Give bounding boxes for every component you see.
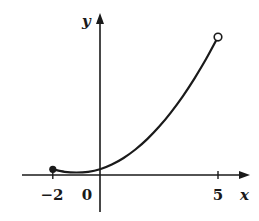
y-axis-label: y <box>81 12 92 30</box>
x-axis-arrow-icon <box>239 171 250 179</box>
closed-endpoint-dot <box>49 166 56 173</box>
tick-label-5: 5 <box>213 186 223 204</box>
tick-label-0: 0 <box>82 186 92 204</box>
tick-label-neg2: −2 <box>40 186 63 204</box>
x-axis-label: x <box>239 186 250 204</box>
function-graph: y x −2 0 5 <box>0 0 259 221</box>
y-axis-arrow-icon <box>96 13 104 24</box>
function-curve <box>53 37 218 173</box>
open-endpoint-circle <box>214 33 222 41</box>
